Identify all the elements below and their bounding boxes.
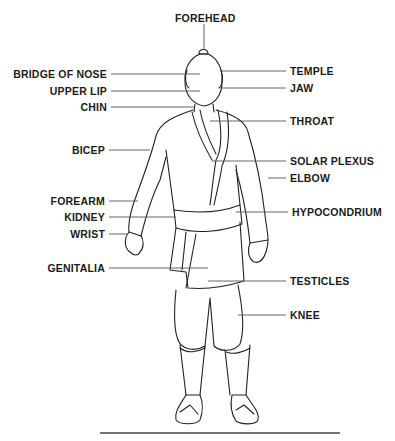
- head: [185, 54, 222, 106]
- left-sandal: [176, 395, 203, 424]
- label-chin: CHIN: [81, 101, 107, 113]
- pants: [175, 285, 243, 350]
- label-forehead: FOREHEAD: [175, 12, 236, 24]
- label-genitalia: GENITALIA: [47, 262, 105, 274]
- label-testicles: TESTICLES: [290, 275, 350, 287]
- label-hypocondrium: HYPOCONDRIUM: [292, 206, 382, 218]
- label-wrist: WRIST: [70, 228, 105, 240]
- label-bridge-of-nose: BRIDGE OF NOSE: [13, 68, 107, 80]
- label-jaw: JAW: [290, 82, 313, 94]
- label-upper-lip: UPPER LIP: [50, 85, 107, 97]
- label-kidney: KIDNEY: [64, 211, 105, 223]
- label-bicep: BICEP: [72, 144, 105, 156]
- label-solar-plexus: SOLAR PLEXUS: [290, 155, 374, 167]
- label-elbow: ELBOW: [290, 172, 330, 184]
- label-temple: TEMPLE: [290, 65, 334, 77]
- label-forearm: FOREARM: [51, 195, 105, 207]
- right-sandal: [231, 395, 258, 424]
- label-knee: KNEE: [290, 309, 320, 321]
- label-throat: THROAT: [290, 115, 334, 127]
- belt: [174, 205, 242, 231]
- figure-drawing: [0, 0, 395, 441]
